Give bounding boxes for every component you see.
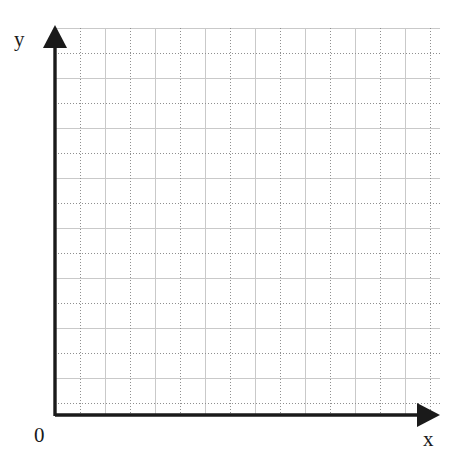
grid-vertical-dotted-lines	[55, 28, 440, 415]
grid-plot-area	[55, 28, 440, 415]
grid-horizontal-dotted-lines	[55, 28, 440, 415]
y-axis-label: y	[14, 29, 25, 50]
coordinate-plane-figure: y x 0	[0, 0, 459, 462]
origin-label: 0	[34, 425, 45, 446]
x-axis-label: x	[423, 429, 434, 450]
